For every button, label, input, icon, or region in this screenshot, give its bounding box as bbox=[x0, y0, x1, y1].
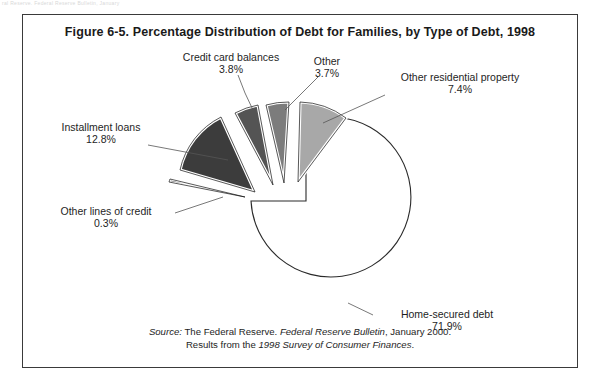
pie-chart: Credit card balances 3.8% Other 3.7% Oth… bbox=[23, 15, 579, 369]
source-publication-title: Federal Reserve Bulletin bbox=[280, 326, 385, 337]
pie-chart-svg: Credit card balances 3.8% Other 3.7% Oth… bbox=[23, 15, 579, 369]
source-label: Source: bbox=[149, 326, 182, 337]
leader-line-home-secured-debt bbox=[348, 303, 373, 315]
leader-line-other-lines-of-credit bbox=[175, 197, 223, 213]
label-other-lines-of-credit-name: Other lines of credit bbox=[60, 205, 151, 217]
label-home-secured-debt-name: Home-secured debt bbox=[401, 308, 493, 320]
label-credit-card-balances-value: 3.8% bbox=[219, 63, 243, 75]
label-other-residential-property-value: 7.4% bbox=[448, 83, 472, 95]
label-installment-loans-value: 12.8% bbox=[86, 133, 116, 145]
label-other-residential-property-name: Other residential property bbox=[401, 71, 520, 83]
source-line-2: Results from the 1998 Survey of Consumer… bbox=[23, 339, 577, 352]
leader-line-credit-card-balances bbox=[238, 75, 253, 110]
source-note: Source: The Federal Reserve. Federal Res… bbox=[23, 326, 577, 351]
label-other-name: Other bbox=[314, 55, 341, 67]
source-line-1: Source: The Federal Reserve. Federal Res… bbox=[23, 326, 577, 339]
source-line-2-text-b: . bbox=[411, 339, 414, 350]
source-line-1-text-a: The Federal Reserve. bbox=[182, 326, 280, 337]
figure-frame: Figure 6-5. Percentage Distribution of D… bbox=[22, 14, 578, 368]
label-credit-card-balances-name: Credit card balances bbox=[183, 51, 279, 63]
source-survey-title: 1998 Survey of Consumer Finances bbox=[258, 339, 411, 350]
faint-page-header: ral Reserve. Federal Reserve Bulletin, J… bbox=[2, 0, 119, 6]
source-line-1-text-b: , January 2000. bbox=[385, 326, 451, 337]
label-installment-loans-name: Installment loans bbox=[62, 121, 141, 133]
label-other-lines-of-credit-value: 0.3% bbox=[94, 217, 118, 229]
label-other-value: 3.7% bbox=[315, 67, 339, 79]
source-line-2-text-a: Results from the bbox=[186, 339, 259, 350]
